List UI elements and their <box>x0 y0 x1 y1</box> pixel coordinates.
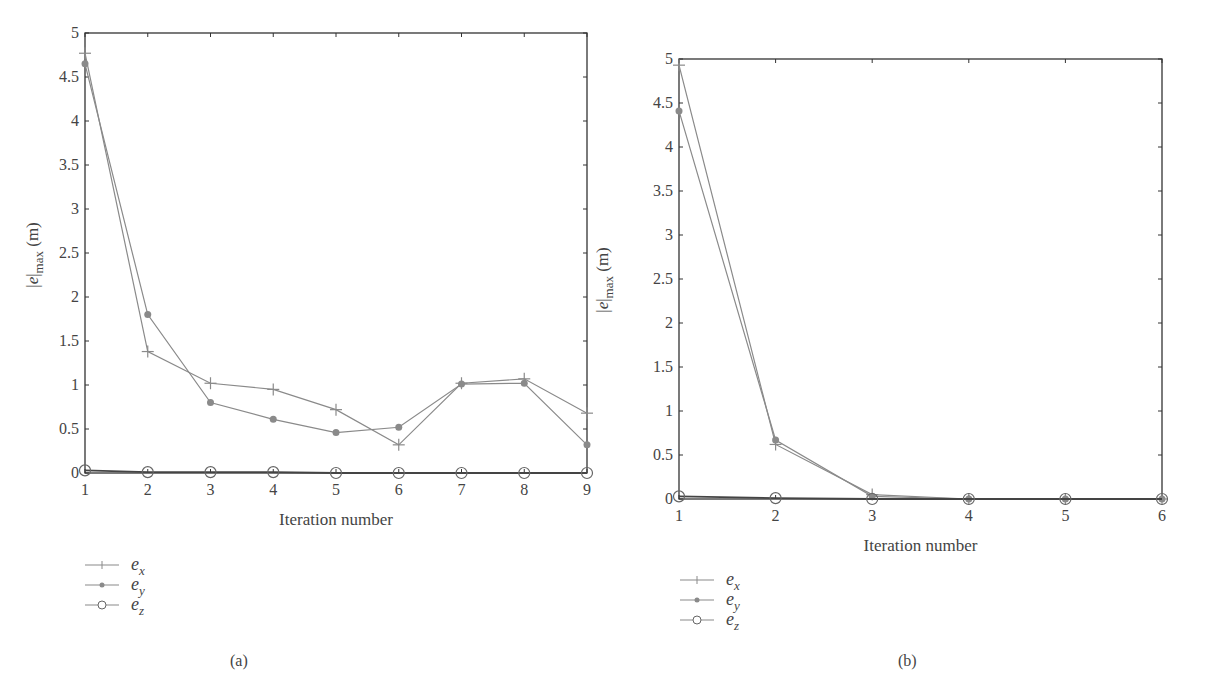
dot-marker-icon <box>772 437 779 444</box>
x-axis-label: Iteration number <box>864 536 978 555</box>
x-tick-label: 2 <box>772 507 780 524</box>
caption-b: (b) <box>898 652 917 670</box>
caption-a: (a) <box>230 652 248 670</box>
x-tick-label: 5 <box>1061 507 1069 524</box>
x-tick-label: 3 <box>868 507 876 524</box>
legend-circle-icon <box>98 601 106 609</box>
x-tick-label: 4 <box>965 507 973 524</box>
dot-marker-icon <box>144 311 151 318</box>
legend-b: exeyez <box>680 569 740 633</box>
y-tick-label: 2 <box>71 288 79 305</box>
series-ex <box>673 59 1168 505</box>
dot-marker-icon <box>333 429 340 436</box>
series-ey <box>82 60 591 448</box>
dot-marker-icon <box>458 381 465 388</box>
x-tick-label: 7 <box>458 481 466 498</box>
y-tick-label: 1.5 <box>653 358 673 375</box>
x-tick-label: 2 <box>144 481 152 498</box>
y-axis-label: |e|max (m) <box>23 222 46 288</box>
chart-b: 00.511.522.533.544.55123456Iteration num… <box>593 50 1168 633</box>
x-tick-label: 6 <box>1158 507 1166 524</box>
y-tick-label: 3.5 <box>653 182 673 199</box>
dot-marker-icon <box>207 399 214 406</box>
y-tick-label: 4 <box>665 138 673 155</box>
dot-marker-icon <box>584 441 591 448</box>
y-tick-label: 3 <box>71 200 79 217</box>
y-tick-label: 2 <box>665 314 673 331</box>
y-tick-label: 2.5 <box>653 270 673 287</box>
y-tick-label: 1 <box>665 402 673 419</box>
legend-dot-icon <box>100 583 105 588</box>
y-tick-label: 0.5 <box>59 420 79 437</box>
dot-marker-icon <box>521 380 528 387</box>
y-tick-label: 3.5 <box>59 156 79 173</box>
plot-frame <box>679 59 1162 499</box>
dot-marker-icon <box>676 107 683 114</box>
series-ex <box>79 47 593 451</box>
y-tick-label: 0 <box>71 464 79 481</box>
y-tick-label: 5 <box>71 24 79 41</box>
y-tick-label: 0 <box>665 490 673 507</box>
series-ey <box>676 107 1166 502</box>
y-tick-label: 4 <box>71 112 79 129</box>
x-tick-label: 8 <box>520 481 528 498</box>
legend-a: exeyez <box>85 554 145 618</box>
legend-dot-icon <box>695 598 700 603</box>
y-tick-label: 3 <box>665 226 673 243</box>
figure: 00.511.522.533.544.55123456789Iteration … <box>0 0 1205 692</box>
x-tick-label: 3 <box>207 481 215 498</box>
legend-circle-icon <box>693 616 701 624</box>
y-axis-label: |e|max (m) <box>593 247 616 313</box>
dot-marker-icon <box>270 416 277 423</box>
y-tick-label: 4.5 <box>59 68 79 85</box>
x-tick-label: 6 <box>395 481 403 498</box>
dot-marker-icon <box>395 424 402 431</box>
x-axis-label: Iteration number <box>279 510 393 529</box>
y-tick-label: 1.5 <box>59 332 79 349</box>
dot-marker-icon <box>82 60 89 67</box>
chart-a: 00.511.522.533.544.55123456789Iteration … <box>23 24 593 618</box>
x-tick-label: 9 <box>583 481 591 498</box>
y-tick-label: 2.5 <box>59 244 79 261</box>
y-tick-label: 1 <box>71 376 79 393</box>
y-tick-label: 4.5 <box>653 94 673 111</box>
x-tick-label: 1 <box>81 481 89 498</box>
y-tick-label: 5 <box>665 50 673 67</box>
x-tick-label: 4 <box>269 481 277 498</box>
chart-panel-a: 00.511.522.533.544.55123456789Iteration … <box>0 0 1205 692</box>
x-tick-label: 5 <box>332 481 340 498</box>
y-tick-label: 0.5 <box>653 446 673 463</box>
x-tick-label: 1 <box>675 507 683 524</box>
